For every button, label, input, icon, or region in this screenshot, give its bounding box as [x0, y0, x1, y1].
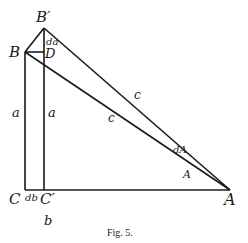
triangle-diagram: B′ B D da a a c c dA A A C db C′ b Fig. …	[0, 0, 248, 243]
segment-BB-prime	[25, 28, 44, 52]
hypotenuse-BA	[25, 52, 230, 190]
label-c-upper: c	[134, 88, 141, 102]
hypotenuse-B-prime-A	[44, 28, 230, 190]
label-a-left: a	[12, 105, 20, 120]
label-angle-A: A	[182, 168, 191, 181]
figure-caption: Fig. 5.	[107, 227, 133, 238]
label-C: C	[9, 190, 21, 208]
label-B: B	[8, 43, 20, 61]
label-dA: dA	[173, 144, 187, 155]
label-db: db	[25, 192, 38, 203]
label-C-prime: C′	[40, 190, 55, 208]
label-a-right: a	[48, 105, 56, 120]
label-b: b	[44, 213, 52, 228]
label-D: D	[44, 46, 56, 61]
label-B-prime: B′	[35, 8, 51, 26]
label-vertex-A: A	[222, 190, 236, 209]
label-c-lower: c	[108, 111, 115, 125]
label-da: da	[46, 36, 58, 47]
